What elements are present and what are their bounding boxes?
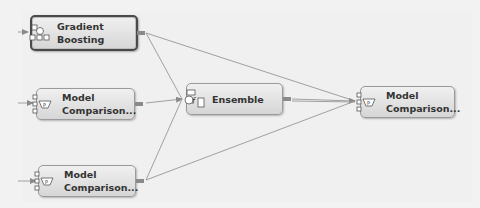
model-comparison-icon: P xyxy=(31,93,57,115)
svg-text:f: f xyxy=(192,97,196,106)
node-label: Model Comparison... xyxy=(64,168,138,194)
svg-text:P: P xyxy=(43,102,46,108)
edge-mc2-ensemble xyxy=(146,99,182,180)
node-gradient-boosting[interactable]: Gradient Boosting xyxy=(30,15,138,51)
node-label: Model Comparison... xyxy=(62,91,136,117)
node-model-comparison-1[interactable]: P Model Comparison... xyxy=(36,88,135,120)
node-label: Gradient Boosting xyxy=(57,20,104,46)
node-model-comparison-3[interactable]: P Model Comparison... xyxy=(360,86,455,118)
output-port[interactable] xyxy=(283,97,291,101)
node-label: Ensemble xyxy=(212,93,264,106)
svg-text:P: P xyxy=(367,100,370,106)
model-comparison-icon: P xyxy=(33,170,59,192)
node-label: Model Comparison... xyxy=(386,89,460,115)
diagram-canvas[interactable]: Gradient Boosting P Model Comparison... … xyxy=(0,0,480,208)
gradient-boosting-icon xyxy=(26,22,52,44)
ensemble-icon: f xyxy=(181,88,207,110)
node-ensemble[interactable]: f Ensemble xyxy=(186,83,283,115)
output-port[interactable] xyxy=(135,102,143,106)
output-port[interactable] xyxy=(137,31,145,35)
model-comparison-icon: P xyxy=(355,91,381,113)
output-port[interactable] xyxy=(136,179,144,183)
node-model-comparison-2[interactable]: P Model Comparison... xyxy=(38,165,136,197)
svg-text:P: P xyxy=(45,179,48,185)
edge-mc1-ensemble xyxy=(146,99,182,103)
